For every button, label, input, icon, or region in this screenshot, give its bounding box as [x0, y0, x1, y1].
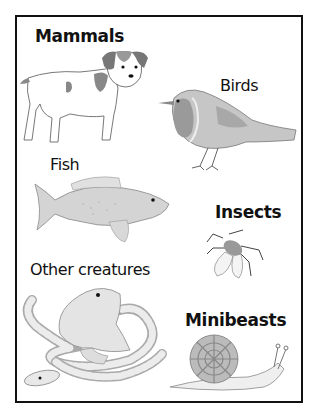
fish-illustration	[33, 174, 175, 246]
frog-and-snake-illustration	[20, 284, 170, 392]
label-insects: Insects	[215, 204, 281, 221]
label-other-creatures: Other creatures	[30, 262, 150, 278]
dog-illustration	[20, 48, 152, 148]
label-minibeasts: Minibeasts	[185, 312, 286, 329]
label-fish: Fish	[50, 157, 79, 173]
snail-illustration	[168, 333, 292, 393]
label-mammals: Mammals	[35, 28, 124, 45]
fly-illustration	[203, 226, 273, 282]
robin-illustration	[156, 86, 300, 176]
